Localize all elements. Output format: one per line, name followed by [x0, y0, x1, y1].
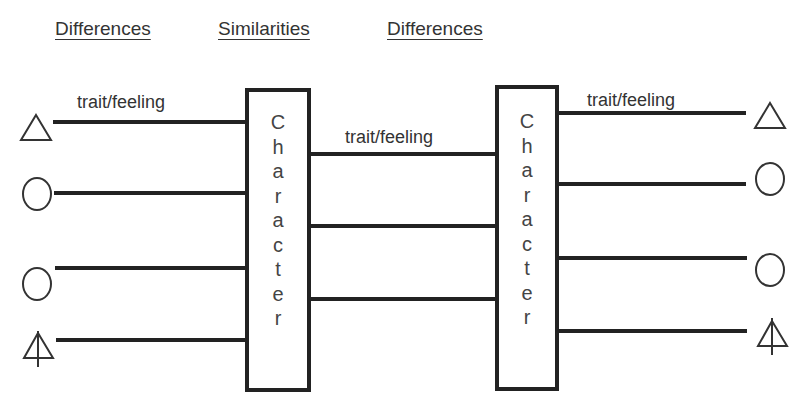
left-connector-1 — [53, 120, 247, 124]
letter: e — [499, 281, 555, 306]
triangle-arrow-icon — [756, 316, 790, 356]
letter: c — [249, 233, 307, 258]
letter: r — [499, 183, 555, 208]
triangle-icon — [752, 100, 788, 132]
triangle-icon — [18, 112, 54, 144]
right-connector-4 — [558, 329, 747, 333]
middle-trait-label: trait/feeling — [345, 127, 433, 148]
letter: C — [249, 110, 307, 135]
heading-right-differences: Differences — [387, 18, 483, 40]
left-connector-3 — [55, 266, 247, 270]
middle-connector-2 — [309, 224, 497, 228]
letter: c — [499, 232, 555, 257]
letter: r — [249, 306, 307, 331]
letter: C — [499, 109, 555, 134]
letter: e — [249, 282, 307, 307]
right-connector-3 — [558, 256, 747, 260]
left-character-text: C h a r a c t e r — [249, 110, 307, 331]
circle-icon — [753, 160, 789, 198]
letter: t — [499, 256, 555, 281]
heading-similarities: Similarities — [218, 18, 310, 40]
letter: h — [249, 135, 307, 160]
triangle-arrow-icon — [22, 330, 56, 368]
left-connector-4 — [56, 338, 247, 342]
left-connector-2 — [54, 191, 247, 195]
right-character-box: C h a r a c t e r — [495, 85, 559, 391]
left-trait-label: trait/feeling — [77, 92, 165, 113]
letter: a — [499, 158, 555, 183]
right-character-text: C h a r a c t e r — [499, 109, 555, 330]
left-character-box: C h a r a c t e r — [245, 88, 311, 392]
circle-icon — [20, 175, 56, 213]
right-trait-label: trait/feeling — [587, 90, 675, 111]
letter: h — [499, 134, 555, 159]
letter: t — [249, 257, 307, 282]
right-connector-2 — [557, 182, 746, 186]
letter: r — [499, 305, 555, 330]
heading-left-differences: Differences — [55, 18, 151, 40]
letter: r — [249, 184, 307, 209]
middle-connector-1 — [309, 152, 497, 156]
circle-icon — [20, 265, 56, 303]
letter: a — [499, 207, 555, 232]
circle-icon — [753, 251, 789, 289]
middle-connector-3 — [310, 297, 497, 301]
right-connector-1 — [556, 111, 746, 115]
letter: a — [249, 208, 307, 233]
letter: a — [249, 159, 307, 184]
